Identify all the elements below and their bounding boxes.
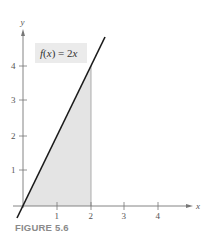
y-tick-label-2: 2 [11, 131, 16, 141]
y-axis-label: y [20, 17, 25, 27]
x-tick-label-4: 4 [156, 211, 161, 221]
x-tick-label-3: 3 [122, 211, 127, 221]
y-axis-arrow-icon [21, 29, 25, 36]
function-label: f(x) = 2x [40, 47, 78, 60]
function-area-chart: y x 1 2 3 4 1 2 3 4 f(x) = 2x [0, 0, 214, 242]
x-axis-label: x [195, 201, 200, 211]
x-axis-arrow-icon [186, 204, 193, 208]
y-tick-label-3: 3 [11, 95, 16, 105]
figure-caption: FIGURE 5.6 [15, 222, 69, 233]
x-tick-label-1: 1 [55, 211, 60, 221]
y-tick-label-1: 1 [11, 165, 16, 175]
x-tick-label-2: 2 [89, 211, 94, 221]
y-tick-label-4: 4 [11, 61, 16, 71]
